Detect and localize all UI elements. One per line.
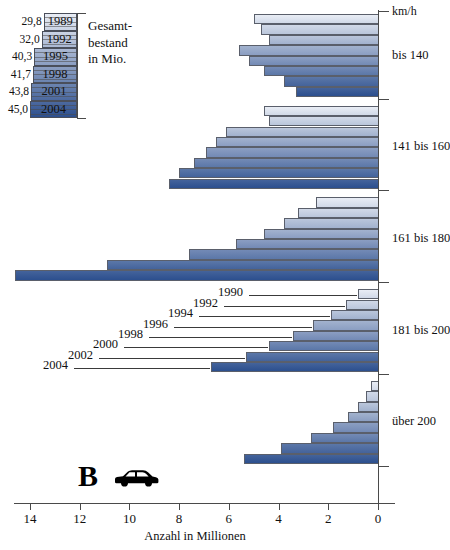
x-tick-mark [30,503,31,510]
bar [264,66,378,76]
x-tick-mark [179,503,180,510]
bar [107,260,378,270]
category-tick [378,282,389,283]
bar [296,87,378,97]
callout-year-label: 1996 [143,317,168,332]
bar [371,381,378,391]
callout-leader-line [124,347,268,348]
inset-caption-line-1: Gesamt- [88,18,132,35]
category-label-4: 181 bis 200 [392,323,450,338]
bar [246,352,378,362]
logo-letter-b: B [78,461,98,491]
callout-year-label: 1990 [218,285,243,300]
bar [244,454,378,464]
zero-value-axis [378,10,379,503]
x-tick-mark [378,503,379,510]
x-tick-mark [328,503,329,510]
inset-caption-line-3: in Mio. [88,51,132,68]
category-label-2: 141 bis 160 [392,139,450,154]
x-tick-label: 0 [363,511,393,527]
x-tick-label: 6 [214,511,244,527]
inset-axis-tick [77,13,86,14]
bar [211,362,378,372]
bar [316,197,378,207]
bar [311,433,378,443]
bar [346,300,378,310]
x-axis-line [14,503,395,504]
x-tick-mark [279,503,280,510]
bar [264,106,378,116]
callout-leader-line [199,316,330,317]
inset-caption: Gesamt- bestand in Mio. [88,18,132,68]
callout-leader-line [224,306,345,307]
bar [284,218,378,228]
bar [269,341,378,351]
x-tick-mark [229,503,230,510]
x-tick-label: 8 [164,511,194,527]
x-tick-label: 2 [313,511,343,527]
inset-year-label: 1998 [33,67,77,82]
category-tick [378,374,389,375]
bar [269,116,378,126]
callout-leader-line [74,368,210,369]
callout-leader-line [174,327,312,328]
x-tick-label: 12 [65,511,95,527]
bar [293,331,378,341]
x-tick-label: 14 [15,511,45,527]
bar [254,14,378,24]
bar [281,443,378,453]
category-tick [378,99,389,100]
bar [261,24,378,34]
bar [249,56,378,66]
inset-axis-line [77,13,78,118]
inset-year-label: 1995 [34,49,77,64]
callout-year-label: 1994 [168,306,193,321]
bar [269,35,378,45]
inset-value-label: 41,7 [0,68,31,80]
bar [169,179,378,189]
inset-value-label: 40,3 [0,50,32,62]
bar [358,402,378,412]
callout-year-label: 2004 [43,358,68,373]
category-tick [378,190,389,191]
inset-value-label: 32,0 [0,33,40,45]
inset-year-label: 2001 [31,84,77,99]
inset-value-label: 29,8 [0,15,42,27]
bar [284,76,378,86]
category-tick [378,466,389,467]
bar [366,391,378,401]
inset-caption-line-2: bestand [88,35,132,52]
callout-leader-line [249,295,357,296]
inset-axis-tick [77,118,86,119]
bar [331,310,378,320]
bar [194,158,378,168]
bar [313,320,378,330]
category-label-1: bis 140 [392,48,428,63]
x-tick-label: 10 [114,511,144,527]
callout-year-label: 1998 [118,327,143,342]
inset-year-label: 1992 [42,32,77,47]
category-label-5: über 200 [392,414,436,429]
bar [216,137,378,147]
callout-leader-line [149,337,292,338]
bar [333,422,378,432]
category-tick [378,11,389,12]
bar [15,270,378,280]
callout-year-label: 2002 [68,348,93,363]
bar [179,168,378,178]
x-axis-title: Anzahl in Millionen [0,529,390,544]
car-icon [112,468,160,492]
x-tick-mark [80,503,81,510]
bar [206,147,378,157]
bar [226,127,378,137]
bar [239,45,378,55]
inset-year-label: 2004 [30,102,77,117]
total-stock-inset: 198929,8199232,0199540,3199841,7200143,8… [0,0,160,135]
callout-year-label: 1992 [193,296,218,311]
bar [236,239,378,249]
inset-year-label: 1989 [44,14,77,29]
x-tick-label: 4 [264,511,294,527]
callout-leader-line [99,358,245,359]
bar [348,412,378,422]
